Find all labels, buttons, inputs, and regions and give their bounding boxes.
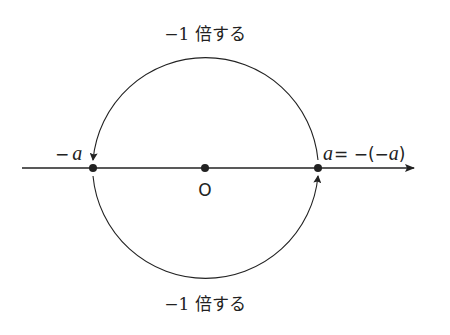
bottom-label: −1 倍する <box>164 294 245 314</box>
number-line-diagram: −1 倍する −1 倍する −a O a= −(−a) <box>0 0 450 335</box>
top-arc-arrow <box>93 58 318 160</box>
label-a-equals: a= −(−a) <box>323 142 405 164</box>
top-label: −1 倍する <box>164 24 245 44</box>
point-a <box>314 164 322 172</box>
point-origin <box>201 164 209 172</box>
label-neg-a: −a <box>55 142 82 164</box>
point-neg-a <box>89 164 97 172</box>
label-origin: O <box>198 180 211 200</box>
